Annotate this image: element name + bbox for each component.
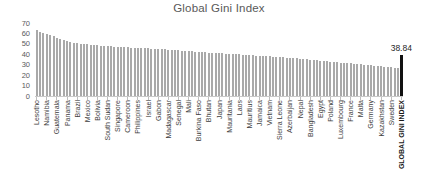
bar: [137, 48, 139, 96]
bar: [157, 49, 159, 96]
x-category-label: Bhutan: [205, 100, 213, 122]
x-category-label: Malta: [357, 100, 365, 117]
x-category-label: South Sudan: [104, 100, 112, 140]
bar: [80, 44, 82, 96]
x-axis-tick: [97, 97, 98, 100]
bar: [164, 49, 166, 96]
x-axis-tick: [56, 97, 57, 100]
bar: [296, 58, 298, 96]
x-category-label: Singapore: [114, 100, 122, 132]
bar: [390, 67, 392, 96]
bar: [154, 49, 156, 96]
bar: [188, 51, 190, 96]
y-tick-label: 70: [0, 19, 30, 28]
bar: [309, 60, 311, 96]
x-category-label: Nepal: [297, 100, 305, 118]
x-axis-tick: [87, 97, 88, 100]
bar: [127, 47, 129, 96]
bar: [201, 52, 203, 96]
bar: [397, 68, 399, 96]
bar: [42, 33, 44, 96]
x-category-label: Mali: [185, 100, 193, 113]
bar: [147, 48, 149, 96]
bar: [53, 36, 55, 96]
x-category-label: Poland: [327, 100, 335, 122]
bar: [218, 53, 220, 96]
x-axis-tick: [320, 97, 321, 100]
x-category-label: Mexico: [84, 100, 92, 122]
bar: [262, 56, 264, 96]
bar: [49, 35, 51, 96]
bar: [282, 57, 284, 96]
bar: [144, 48, 146, 96]
bar: [177, 50, 179, 96]
x-category-label: Germany: [367, 100, 375, 129]
bar: [329, 62, 331, 96]
x-category-label: Lesotho: [33, 100, 41, 125]
bar: [73, 43, 75, 96]
x-axis-tick: [117, 97, 118, 100]
bar: [269, 56, 271, 96]
x-category-label: Japan: [216, 100, 224, 119]
bar: [161, 49, 163, 96]
global-gini-data-label: 38.84: [379, 43, 423, 53]
x-category-label: Azerbaijan: [286, 100, 294, 133]
bar: [363, 65, 365, 96]
bar: [367, 65, 369, 96]
x-axis-tick: [370, 97, 371, 100]
bar: [110, 46, 112, 96]
x-category-label: Bolivia: [94, 100, 102, 121]
x-category-label: Luxembourg: [337, 100, 345, 139]
bar: [333, 62, 335, 96]
bar: [346, 63, 348, 96]
bar: [383, 67, 385, 96]
bar: [387, 67, 389, 96]
x-axis-tick: [340, 97, 341, 100]
bar: [221, 53, 223, 96]
bar: [198, 52, 200, 96]
x-axis-tick: [269, 97, 270, 100]
gini-bar-chart: Global Gini Index 010203040506070 Lesoth…: [0, 0, 426, 181]
bar: [83, 44, 85, 96]
bar: [235, 54, 237, 96]
bar: [248, 55, 250, 96]
bar: [343, 63, 345, 96]
bar: [100, 46, 102, 96]
bar: [123, 47, 125, 96]
y-tick-label: 40: [0, 50, 30, 59]
bar: [377, 66, 379, 96]
x-category-label: Burkina Faso: [195, 100, 203, 141]
x-axis-tick: [300, 97, 301, 100]
bar: [340, 63, 342, 96]
x-category-label: Senegal: [175, 100, 183, 126]
x-category-label: GLOBAL GINI INDEX: [398, 100, 406, 169]
x-axis-tick: [67, 97, 68, 100]
x-axis-tick: [391, 97, 392, 100]
bar: [120, 47, 122, 96]
x-category-label: Bangladesh: [307, 100, 315, 137]
y-tick-label: 30: [0, 60, 30, 69]
x-axis-tick: [46, 97, 47, 100]
bar: [356, 64, 358, 96]
x-category-label: Mauritius: [246, 100, 254, 128]
bar: [171, 50, 173, 96]
bar: [275, 57, 277, 96]
bar: [225, 54, 227, 96]
bar: [117, 47, 119, 96]
bar: [113, 47, 115, 96]
x-category-label: Kazakhstan: [378, 100, 386, 137]
bar: [134, 48, 136, 96]
bar: [194, 52, 196, 96]
bar: [313, 60, 315, 96]
bar: [306, 59, 308, 96]
x-axis-tick: [198, 97, 199, 100]
bar: [103, 46, 105, 96]
bar: [316, 60, 318, 96]
x-axis-tick: [259, 97, 260, 100]
x-category-label: Mauritania: [226, 100, 234, 133]
x-category-label: Gabon: [155, 100, 163, 121]
bar: [90, 45, 92, 96]
bar: [326, 61, 328, 96]
bar: [394, 68, 396, 96]
x-category-label: Sweden: [388, 100, 396, 125]
